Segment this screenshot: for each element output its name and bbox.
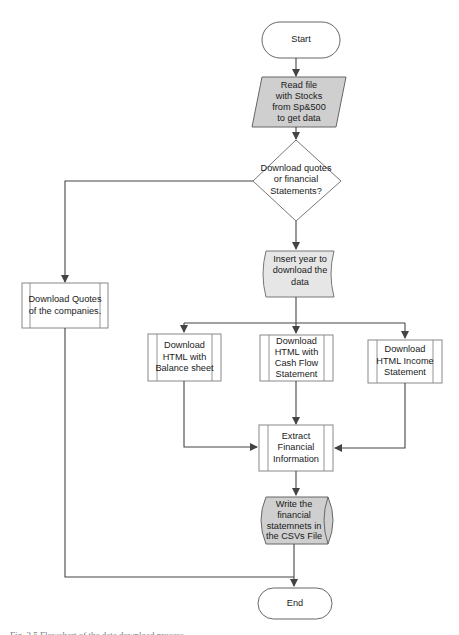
- decision-label: Download quotes or financial Statements?: [250, 160, 342, 200]
- figure-caption: Fig. 3.5 Flowchart of the data download …: [10, 628, 184, 635]
- end-label: End: [258, 588, 332, 619]
- read-file-label: Read file with Stocks from Sp&500 to get…: [256, 77, 342, 127]
- cash-flow-label: Download HTML with Cash Flow Statement: [260, 335, 333, 381]
- flowchart-canvas: Start Read file with Stocks from Sp&500 …: [0, 0, 459, 635]
- insert-year-label: Insert year to download the data: [262, 251, 338, 291]
- income-statement-label: Download HTML Income Statement: [366, 340, 444, 383]
- edge-is-extract: [335, 383, 405, 448]
- extract-label: Extract Financial Information: [259, 425, 333, 471]
- balance-sheet-label: Download HTML with Balance sheet: [148, 334, 221, 381]
- start-label: Start: [262, 22, 340, 58]
- write-csv-label: Write the financial statemnets in the CS…: [258, 497, 330, 544]
- edge-bs-extract: [184, 381, 257, 447]
- download-quotes-label: Download Quotes of the companies.: [22, 283, 108, 328]
- edge-decision-quotes: [65, 181, 253, 282]
